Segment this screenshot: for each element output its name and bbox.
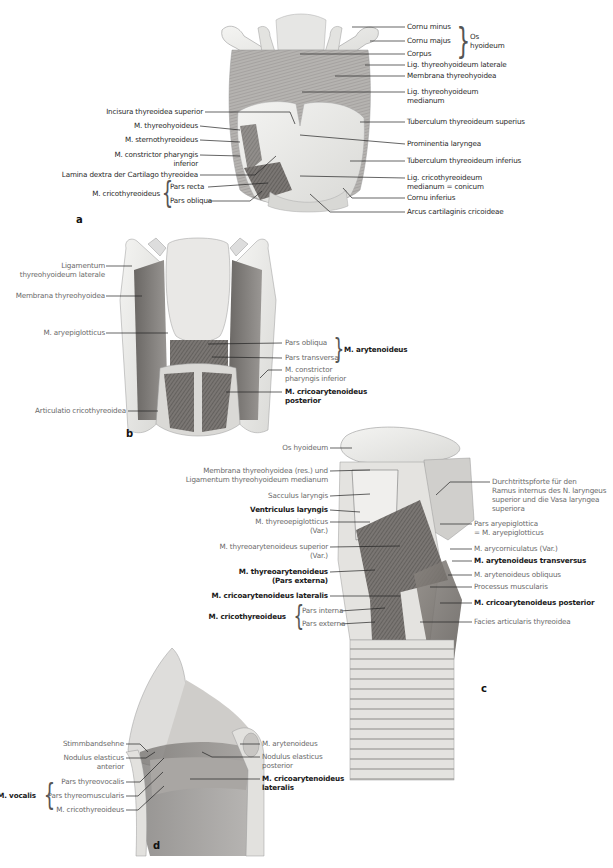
label-eq-m-aryepiglotticus: = M. aryepiglotticus [474, 529, 544, 538]
panel-letter-a: a [76, 214, 83, 225]
label-anterior: anterior [97, 763, 124, 772]
label-articulatio-cricothyreoidea: Articulatio cricothyreoidea [35, 407, 126, 416]
label-prominentia-laryngea: Prominentia laryngea [407, 140, 481, 149]
label-incisura-thyreoidea-superior: Incisura thyreoidea superior [106, 108, 203, 117]
label-pars-thyreomuscularis: Pars thyreomuscularis [48, 792, 124, 801]
label-membrana-thyreohyoidea: Membrana thyreohyoidea [407, 72, 496, 81]
label-pars-transversa: Pars transversa [285, 354, 338, 363]
label-m-cricothyreoideus-c: M. cricothyreoideus [209, 613, 286, 622]
label-var-1: (Var.) [310, 527, 328, 536]
label-lateralis-d: lateralis [262, 784, 294, 793]
label-pars-interna: Pars interna [302, 607, 343, 616]
panel-letter-c: c [481, 683, 487, 694]
brace-arytenoideus: } [334, 336, 345, 364]
label-tuberculum-inferius: Tuberculum thyreoideum inferius [407, 157, 521, 166]
label-medianum: medianum [407, 97, 444, 106]
label-m-arycorniculatus: M. arycorniculatus (Var.) [474, 545, 558, 554]
label-cornu-minus: Cornu minus [407, 23, 451, 32]
label-sacculus-laryngis: Sacculus laryngis [268, 492, 328, 501]
label-pars-obliqua-a: Pars obliqua [170, 197, 212, 206]
label-m-arytenoideus: M. arytenoideus [344, 346, 407, 355]
brace-os-hyoideum: } [457, 23, 471, 59]
label-arcus-cartilaginis-cricoideae: Arcus cartilaginis cricoideae [407, 208, 504, 217]
label-pharyngis-inferior-b: pharyngis inferior [285, 375, 346, 384]
label-tuberculum-superius: Tuberculum thyreoideum superius [407, 118, 525, 127]
label-m-vocalis: M. vocalis [0, 792, 36, 801]
label-pars-obliqua-b: Pars obliqua [285, 339, 327, 348]
panel-a-illustration [222, 14, 379, 212]
label-medianum-conicum: medianum = conicum [407, 183, 484, 192]
label-pars-externa-paren: (Pars externa) [272, 577, 328, 586]
label-m-cricothyreoideus-d: M. cricothyreoideus [56, 806, 124, 815]
label-cornu-inferius: Cornu inferius [407, 194, 455, 203]
label-thyreohyoideum-laterale: thyreohyoideum laterale [20, 271, 105, 280]
label-pars-recta: Pars recta [170, 183, 204, 192]
label-ventriculus-laryngis: Ventriculus laryngis [250, 506, 328, 515]
label-m-arytenoideus-obliquus: M. arytenoideus obliquus [474, 571, 561, 580]
label-m-aryepiglotticus: M. aryepiglotticus [43, 329, 105, 338]
label-posterior-b: posterior [285, 397, 321, 406]
label-corpus: Corpus [407, 50, 431, 59]
label-membrana-thyreohyoidea-b: Membrana thyreohyoidea [16, 292, 105, 301]
label-processus-muscularis: Processus muscularis [474, 583, 548, 592]
panel-b-illustration [120, 238, 276, 436]
label-m-cricoarytenoideus-lateralis-c: M. cricoarytenoideus lateralis [212, 592, 328, 601]
label-m-cricoarytenoideus-posterior-c: M. cricoarytenoideus posterior [474, 599, 594, 608]
label-lamina-dextra: Lamina dextra der Cartilago thyreoidea [62, 171, 198, 180]
label-facies-articularis-thyreoidea: Facies articularis thyreoidea [474, 618, 571, 627]
panel-letter-d: d [153, 840, 160, 851]
panel-d-illustration [126, 648, 264, 856]
label-m-arytenoideus-transversus: M. arytenoideus transversus [474, 557, 586, 566]
label-cornu-majus: Cornu majus [407, 37, 451, 46]
panel-letter-b: b [126, 428, 133, 439]
label-hyoideum: hyoideum [470, 42, 505, 51]
label-pars-thyreovocalis: Pars thyreovocalis [61, 778, 124, 787]
label-os-hyoideum-c: Os hyoideum [282, 444, 328, 453]
label-superiora: superiora [492, 505, 525, 514]
label-m-thyreohyoideus: M. thyreohyoideus [134, 122, 198, 131]
label-m-sternothyreoideus: M. sternothyreoideus [125, 136, 198, 145]
label-stimmbandsehne: Stimmbandsehne [63, 740, 124, 749]
label-m-arytenoideus-d: M. arytenoideus [262, 740, 318, 749]
anatomy-illustrations [0, 0, 613, 868]
panel-c-illustration [338, 427, 474, 780]
label-inferior: inferior [173, 160, 198, 169]
label-lig-thyreohyoideum-laterale: Lig. thyreohyoideum laterale [407, 61, 507, 70]
label-ligamentum-thyreohyoideum-medianum: Ligamentum thyreohyoideum medianum [186, 476, 328, 485]
label-var-2: (Var.) [310, 552, 328, 561]
label-posterior-d: posterior [262, 762, 293, 771]
label-pars-externa: Pars externa [302, 620, 345, 629]
label-m-cricothyreoideus-a: M. cricothyreoideus [92, 190, 160, 199]
